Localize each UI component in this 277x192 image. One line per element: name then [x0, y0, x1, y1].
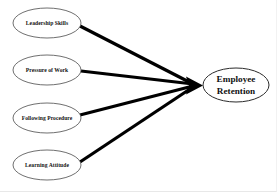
arrow-learning-attitude [80, 87, 193, 162]
node-employee-retention-shape [203, 68, 269, 102]
arrow-leadership-skills [80, 26, 193, 84]
arrow-following-procedure [80, 86, 193, 115]
node-following-procedure[interactable]: Following Procedure [13, 103, 81, 133]
node-leadership-skills[interactable]: Leadership Skills [13, 8, 81, 38]
arrow-group [80, 26, 203, 162]
node-learning-attitude-label: Learning Attitude [25, 162, 69, 168]
node-employee-retention-label-line2: Retention [217, 86, 255, 96]
node-learning-attitude[interactable]: Learning Attitude [13, 150, 81, 180]
node-pressure-of-work[interactable]: Pressure of Work [13, 55, 81, 85]
node-employee-retention-label-line1: Employee [217, 74, 256, 84]
node-employee-retention[interactable]: Employee Retention [203, 68, 269, 102]
node-leadership-skills-label: Leadership Skills [26, 20, 69, 26]
path-diagram: Leadership Skills Pressure of Work Follo… [0, 0, 277, 192]
path-diagram-canvas: Leadership Skills Pressure of Work Follo… [0, 0, 277, 192]
node-pressure-of-work-label: Pressure of Work [26, 67, 69, 73]
node-following-procedure-label: Following Procedure [22, 115, 73, 121]
arrow-pressure-of-work [81, 71, 193, 84]
